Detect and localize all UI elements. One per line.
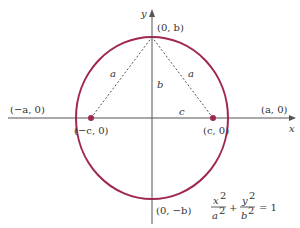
eq-b-exp: 2 xyxy=(248,205,254,216)
ellipse-diagram: y x (0, b) (0, −b) (−a, 0) (a, 0) (−c, 0… xyxy=(0,0,300,228)
focus-left-point xyxy=(88,115,94,121)
vertex-left-label: (−a, 0) xyxy=(10,104,45,115)
eq-y-exp: 2 xyxy=(249,190,255,201)
segment-label-b: b xyxy=(157,79,163,90)
vertex-bottom-label: (0, −b) xyxy=(156,205,191,216)
y-axis-label: y xyxy=(140,8,147,19)
ellipse-equation: x 2 a 2 + y 2 b 2 = 1 xyxy=(211,190,277,221)
eq-a-denominator: a xyxy=(212,210,218,221)
segment-label-left-a: a xyxy=(110,68,116,79)
vertex-right-label: (a, 0) xyxy=(261,104,288,115)
eq-b-denominator: b xyxy=(241,210,247,221)
eq-a-exp: 2 xyxy=(219,205,225,216)
dashed-left-segment xyxy=(91,37,152,118)
focus-right-point xyxy=(210,115,216,121)
vertex-top-label: (0, b) xyxy=(157,22,184,33)
segment-label-c: c xyxy=(179,106,185,117)
eq-plus: + xyxy=(229,202,237,213)
focus-left-label: (−c, 0) xyxy=(74,125,109,136)
x-axis-label: x xyxy=(289,123,295,134)
x-axis-arrow-icon xyxy=(289,115,296,121)
eq-y-numerator: y xyxy=(241,195,248,206)
y-axis-arrow-icon xyxy=(149,9,155,17)
focus-right-label: (c, 0) xyxy=(203,125,229,136)
eq-x-exp: 2 xyxy=(220,190,226,201)
segment-label-right-a: a xyxy=(188,68,194,79)
eq-rhs: = 1 xyxy=(259,202,277,213)
